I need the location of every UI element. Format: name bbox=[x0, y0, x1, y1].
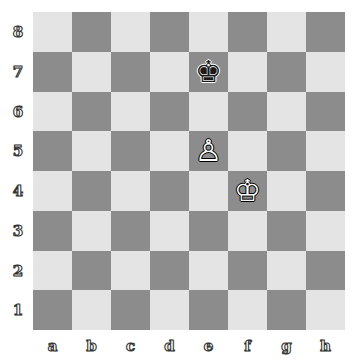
square-c2[interactable] bbox=[111, 251, 150, 291]
square-b5[interactable] bbox=[72, 131, 111, 171]
square-h1[interactable] bbox=[306, 290, 345, 330]
square-d4[interactable] bbox=[150, 171, 189, 211]
square-g7[interactable] bbox=[267, 52, 306, 92]
square-a7[interactable] bbox=[33, 52, 72, 92]
square-f1[interactable] bbox=[228, 290, 267, 330]
square-f5[interactable] bbox=[228, 131, 267, 171]
file-label-b: b bbox=[72, 337, 111, 355]
square-d1[interactable] bbox=[150, 290, 189, 330]
file-label-a: a bbox=[33, 337, 72, 355]
rank-label-4: 4 bbox=[10, 182, 26, 200]
file-label-e: e bbox=[189, 337, 228, 355]
square-b2[interactable] bbox=[72, 251, 111, 291]
square-a4[interactable] bbox=[33, 171, 72, 211]
square-d2[interactable] bbox=[150, 251, 189, 291]
square-c5[interactable] bbox=[111, 131, 150, 171]
rank-label-7: 7 bbox=[10, 63, 26, 81]
square-f6[interactable] bbox=[228, 92, 267, 132]
square-e6[interactable] bbox=[189, 92, 228, 132]
square-e5[interactable]: ♙ bbox=[189, 131, 228, 171]
square-f3[interactable] bbox=[228, 211, 267, 251]
square-a6[interactable] bbox=[33, 92, 72, 132]
square-c1[interactable] bbox=[111, 290, 150, 330]
file-label-f: f bbox=[228, 337, 267, 355]
square-e7[interactable]: ♚ bbox=[189, 52, 228, 92]
square-e2[interactable] bbox=[189, 251, 228, 291]
square-b8[interactable] bbox=[72, 12, 111, 52]
square-d8[interactable] bbox=[150, 12, 189, 52]
square-b1[interactable] bbox=[72, 290, 111, 330]
square-f2[interactable] bbox=[228, 251, 267, 291]
square-h2[interactable] bbox=[306, 251, 345, 291]
square-f8[interactable] bbox=[228, 12, 267, 52]
square-a1[interactable] bbox=[33, 290, 72, 330]
square-e8[interactable] bbox=[189, 12, 228, 52]
rank-label-1: 1 bbox=[10, 301, 26, 319]
square-h3[interactable] bbox=[306, 211, 345, 251]
white-king-icon[interactable]: ♔ bbox=[234, 176, 261, 206]
square-e4[interactable] bbox=[189, 171, 228, 211]
square-g6[interactable] bbox=[267, 92, 306, 132]
square-h5[interactable] bbox=[306, 131, 345, 171]
square-b3[interactable] bbox=[72, 211, 111, 251]
square-g3[interactable] bbox=[267, 211, 306, 251]
square-b7[interactable] bbox=[72, 52, 111, 92]
rank-label-8: 8 bbox=[10, 23, 26, 41]
file-label-h: h bbox=[306, 337, 345, 355]
square-b4[interactable] bbox=[72, 171, 111, 211]
square-a2[interactable] bbox=[33, 251, 72, 291]
square-e1[interactable] bbox=[189, 290, 228, 330]
square-e3[interactable] bbox=[189, 211, 228, 251]
square-f7[interactable] bbox=[228, 52, 267, 92]
chess-board: ♚♙♔ bbox=[33, 12, 345, 330]
square-g1[interactable] bbox=[267, 290, 306, 330]
square-g8[interactable] bbox=[267, 12, 306, 52]
file-label-d: d bbox=[150, 337, 189, 355]
square-c7[interactable] bbox=[111, 52, 150, 92]
square-g4[interactable] bbox=[267, 171, 306, 211]
square-d6[interactable] bbox=[150, 92, 189, 132]
square-c8[interactable] bbox=[111, 12, 150, 52]
square-h4[interactable] bbox=[306, 171, 345, 211]
square-f4[interactable]: ♔ bbox=[228, 171, 267, 211]
black-king-icon[interactable]: ♚ bbox=[195, 57, 222, 87]
square-c4[interactable] bbox=[111, 171, 150, 211]
square-d3[interactable] bbox=[150, 211, 189, 251]
square-h6[interactable] bbox=[306, 92, 345, 132]
rank-label-6: 6 bbox=[10, 103, 26, 121]
square-a8[interactable] bbox=[33, 12, 72, 52]
rank-label-3: 3 bbox=[10, 222, 26, 240]
square-h7[interactable] bbox=[306, 52, 345, 92]
file-label-g: g bbox=[267, 337, 306, 355]
white-pawn-icon[interactable]: ♙ bbox=[195, 136, 222, 166]
square-a3[interactable] bbox=[33, 211, 72, 251]
square-d7[interactable] bbox=[150, 52, 189, 92]
square-b6[interactable] bbox=[72, 92, 111, 132]
square-c6[interactable] bbox=[111, 92, 150, 132]
file-label-c: c bbox=[111, 337, 150, 355]
rank-label-2: 2 bbox=[10, 262, 26, 280]
square-h8[interactable] bbox=[306, 12, 345, 52]
rank-label-5: 5 bbox=[10, 142, 26, 160]
square-d5[interactable] bbox=[150, 131, 189, 171]
square-g5[interactable] bbox=[267, 131, 306, 171]
square-c3[interactable] bbox=[111, 211, 150, 251]
square-g2[interactable] bbox=[267, 251, 306, 291]
square-a5[interactable] bbox=[33, 131, 72, 171]
